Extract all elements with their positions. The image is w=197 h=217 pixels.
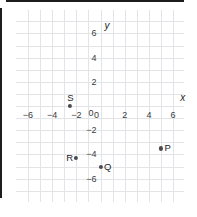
- grid-line-horizontal: [16, 58, 184, 59]
- y-tick-label: 2: [84, 77, 97, 86]
- grid-line-horizontal: [16, 191, 184, 192]
- grid-line-horizontal: [16, 82, 184, 83]
- grid-line-horizontal: [16, 70, 184, 71]
- x-tick-label: −6: [23, 111, 33, 120]
- grid-line-horizontal: [16, 33, 184, 34]
- y-tick-label: −2: [84, 126, 97, 135]
- grid-line-horizontal: [16, 130, 184, 131]
- grid-area: [16, 10, 184, 202]
- grid-line-horizontal: [16, 94, 184, 95]
- x-tick-label: −2: [71, 111, 81, 120]
- y-tick-label: −4: [84, 150, 97, 159]
- grid-line-horizontal: [16, 106, 184, 107]
- y-axis-label: y: [105, 21, 110, 31]
- point-label-q: Q: [104, 162, 111, 172]
- y-tick-label: 0: [89, 109, 94, 118]
- x-axis: [6, 0, 184, 2]
- x-tick-label: 4: [146, 111, 151, 120]
- grid-line-horizontal: [16, 142, 184, 143]
- y-tick-label: 6: [84, 29, 97, 38]
- y-tick-label: 4: [84, 53, 97, 62]
- grid-line-horizontal: [16, 46, 184, 47]
- x-tick-label: 2: [122, 111, 127, 120]
- x-tick-label: 6: [171, 111, 176, 120]
- grid-line-horizontal: [16, 118, 184, 119]
- grid-line-horizontal: [16, 154, 184, 155]
- point-label-s: S: [67, 93, 73, 103]
- x-tick-label: −4: [47, 111, 57, 120]
- y-tick-label: −6: [84, 174, 97, 183]
- x-tick-label: 0: [94, 111, 99, 120]
- grid-line-horizontal: [16, 179, 184, 180]
- point-label-r: R: [66, 153, 73, 163]
- coordinate-plane: x y −6−4−20246 6420−2−4−6 PQRS: [0, 0, 197, 217]
- x-axis-label: x: [180, 93, 185, 103]
- y-axis: [0, 8, 2, 198]
- point-label-p: P: [165, 143, 171, 153]
- grid-line-horizontal: [16, 21, 184, 22]
